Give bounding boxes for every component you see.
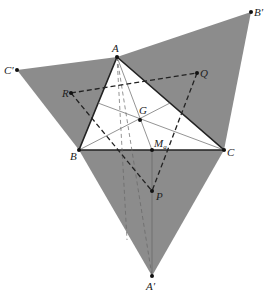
label-c-prime: C′ [4, 64, 14, 76]
label-p: P [155, 190, 163, 202]
label-r: R [61, 87, 69, 99]
label-a: A [111, 42, 119, 54]
label-b: B [70, 150, 77, 162]
label-g: G [139, 104, 147, 116]
label-q: Q [200, 67, 208, 79]
geometry-diagram: A B C A′ B′ C′ R Q G Ma P [0, 0, 269, 300]
label-b-prime: B′ [254, 6, 264, 18]
triangle-bca-prime [79, 150, 224, 276]
label-c: C [227, 146, 235, 158]
label-a-prime: A′ [145, 280, 156, 292]
